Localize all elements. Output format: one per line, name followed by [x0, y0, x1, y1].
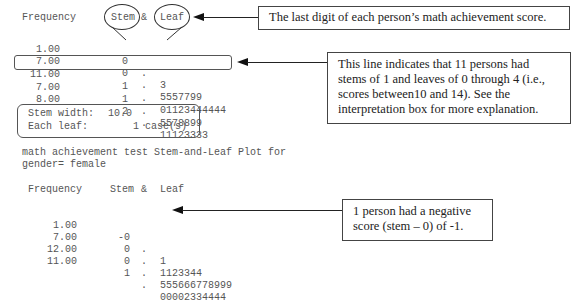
stem-dot: . [141, 280, 147, 292]
plot2-row: 11.00 1 . 00002334444 [0, 244, 12, 256]
highlight-row-box [14, 55, 232, 70]
plot1-row: 7.00 1 . 5578899 [0, 70, 12, 82]
stem-value: 0 [100, 256, 130, 268]
plot2-frequency-header: Frequency [28, 184, 82, 196]
leaf-value: 1 [160, 256, 166, 268]
plot2-amp-header: & [141, 184, 147, 196]
stem-width-value: 10.0 [108, 108, 132, 120]
leaf-value: 00002334444 [160, 292, 226, 304]
leaf-callout: The last digit of each person’s math ach… [258, 6, 570, 30]
stem-value: 1 [100, 268, 130, 280]
leaf-value: 3 [160, 80, 166, 92]
arrow-line [247, 62, 327, 63]
frequency-value: 1.00 [17, 220, 77, 232]
stem-width-label: Stem width: [28, 108, 94, 120]
plot2-row: 1.00 -0 . 1 [0, 208, 12, 220]
arrow-line [203, 17, 258, 18]
plot2-row: 7.00 0 . 1123344 [0, 220, 12, 232]
stem-dot: . [141, 244, 147, 256]
plot1-row: 7.00 0 . 5557799 [0, 44, 12, 56]
leaf-value: 555666778999 [160, 280, 232, 292]
plot2-title-line2: gender= female [22, 159, 106, 171]
line-callout: This line indicates that 11 persons had … [327, 52, 571, 124]
stem-dot: . [141, 256, 147, 268]
arrow-line [182, 210, 342, 211]
leaf-value: 5557799 [160, 92, 202, 104]
stem-dot: . [141, 80, 147, 92]
frequency-value: 12.00 [17, 244, 77, 256]
each-leaf-label: Each leaf: [28, 121, 88, 133]
plot2-stem-header: Stem [110, 184, 134, 196]
negative-callout: 1 person had a negative score (stem – 0)… [342, 199, 493, 241]
each-leaf-value: 1 case(s) [133, 121, 187, 133]
stem-value: -0 [100, 232, 130, 244]
frequency-value: 7.00 [17, 232, 77, 244]
plot2-title-line1: math achievement test Stem-and-Leaf Plot… [22, 147, 286, 159]
plot2-leaf-header: Leaf [160, 184, 184, 196]
negative-callout-text: 1 person had a negative score (stem – 0)… [353, 204, 471, 233]
plot1-row: 8.00 2 . 11123333 [0, 82, 12, 94]
leaf-callout-text: The last digit of each person’s math ach… [269, 10, 546, 24]
plot1-row: 1.00 0 . 3 [0, 32, 12, 44]
stem-value: 0 [100, 244, 130, 256]
leaf-value: 1123344 [160, 268, 202, 280]
plot1-row-highlighted: 11.00 1 . 01123444444 [0, 57, 12, 69]
stem-value: 1 [98, 81, 128, 93]
line-callout-text: This line indicates that 11 persons had … [338, 57, 545, 116]
stem-dot: . [141, 268, 147, 280]
frequency-value: 11.00 [17, 256, 77, 268]
plot2-row: 12.00 0 . 555666778999 [0, 232, 12, 244]
